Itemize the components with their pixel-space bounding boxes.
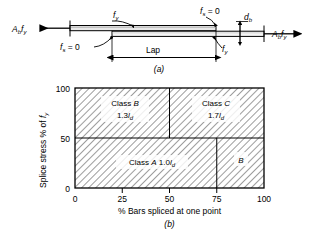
db-label: db bbox=[244, 12, 253, 23]
fs-zero-right-label: fs = 0 bbox=[200, 6, 220, 17]
xtick-0: 0 bbox=[73, 194, 78, 204]
panel-b-chart: Class B 1.3ld Class C 1.7ld Class A 1.0l… bbox=[38, 84, 271, 230]
class-b-small-name: B bbox=[238, 156, 244, 165]
fy-bottom-leader bbox=[214, 37, 222, 48]
fy-top-label: fy bbox=[113, 10, 119, 21]
caption-a: (a) bbox=[154, 64, 165, 74]
xtick-75: 75 bbox=[212, 194, 222, 204]
panel-a-diagram: Abfy Abfy fy fs = 0 fs = 0 fy db Lap bbox=[11, 6, 294, 74]
xtick-25: 25 bbox=[118, 194, 128, 204]
x-axis-ticks: 0 25 50 75 100 bbox=[73, 188, 272, 204]
fs-zero-right-leader bbox=[206, 17, 216, 26]
region-label-b-small: B bbox=[234, 152, 248, 166]
y-axis: 100 50 0 bbox=[56, 84, 70, 194]
fs-zero-left-leader bbox=[94, 37, 112, 47]
caption-b: (b) bbox=[164, 219, 175, 229]
left-force-label: Abfy bbox=[11, 24, 27, 35]
lower-bar bbox=[112, 31, 264, 36]
fy-bottom-label: fy bbox=[222, 44, 228, 55]
region-label-class-c: Class C 1.7ld bbox=[192, 96, 240, 122]
ytick-50: 50 bbox=[61, 134, 71, 144]
fs-zero-left-label: fs = 0 bbox=[60, 42, 80, 53]
xtick-50: 50 bbox=[165, 194, 175, 204]
class-c-name: Class C bbox=[202, 99, 230, 108]
class-a-name: Class A 1.0ld bbox=[129, 158, 176, 168]
xtick-100: 100 bbox=[257, 194, 271, 204]
upper-bar bbox=[70, 26, 216, 31]
lap-label: Lap bbox=[146, 45, 160, 55]
ytick-0: 0 bbox=[65, 184, 70, 194]
region-label-class-b: Class B 1.3ld bbox=[101, 96, 149, 122]
right-force-label: Abfy bbox=[271, 29, 287, 40]
y-axis-title: Splice stress % of fy bbox=[38, 112, 49, 188]
region-label-class-a: Class A 1.0ld bbox=[116, 155, 188, 169]
ytick-100: 100 bbox=[56, 84, 70, 94]
figure-svg: Abfy Abfy fy fs = 0 fs = 0 fy db Lap bbox=[0, 0, 314, 230]
figure-container: Abfy Abfy fy fs = 0 fs = 0 fy db Lap bbox=[0, 0, 314, 230]
x-axis-title: % Bars spliced at one point bbox=[118, 206, 222, 216]
class-b-name: Class B bbox=[111, 99, 139, 108]
